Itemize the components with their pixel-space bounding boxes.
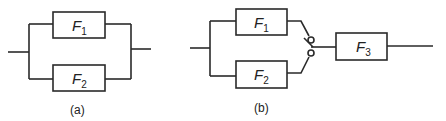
caption-b: (b) xyxy=(254,101,269,115)
diagram-a: F1 F2 (a) xyxy=(8,12,151,117)
block-diagrams: F1 F2 (a) F1 F2 F3 (b) xyxy=(0,0,446,121)
caption-a: (a) xyxy=(70,103,85,117)
wire xyxy=(287,57,309,73)
diagram-b: F1 F2 F3 (b) xyxy=(190,9,433,115)
switch-contact-bottom xyxy=(308,50,314,56)
switch xyxy=(287,21,336,73)
wire xyxy=(287,21,309,36)
